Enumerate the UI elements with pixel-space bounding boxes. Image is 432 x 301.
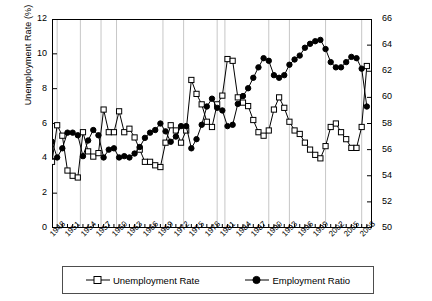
filled-circle-icon [245,275,269,285]
y-tick-label-right: 56 [382,144,404,154]
y-tick-label-left: 12 [25,13,47,23]
plot-area [52,19,372,228]
y-tick-label-left: 10 [25,48,47,58]
y-tick-label-right: 54 [382,170,404,180]
chart-legend: Unemployment Rate Employment Ratio [62,266,374,294]
chart-root: Unemployment Rate (%) Employment Ratio (… [0,0,432,301]
y-tick-label-left: 6 [25,118,47,128]
y-tick-label-left: 0 [25,222,47,232]
open-square-icon [86,275,110,285]
y-tick-label-right: 50 [382,222,404,232]
legend-item-unemployment-rate: Unemployment Rate [86,275,200,286]
y-tick-label-right: 64 [382,39,404,49]
legend-label-employment-ratio: Employment Ratio [272,275,350,286]
y-tick-label-right: 60 [382,91,404,101]
y-tick-label-left: 8 [25,83,47,93]
y-tick-label-right: 62 [382,65,404,75]
y-tick-label-right: 66 [382,13,404,23]
legend-item-employment-ratio: Employment Ratio [245,275,350,286]
legend-label-unemployment-rate: Unemployment Rate [113,275,200,286]
y-tick-label-left: 4 [25,152,47,162]
chart-canvas [52,19,372,228]
y-tick-label-right: 52 [382,196,404,206]
y-tick-label-left: 2 [25,187,47,197]
y-tick-label-right: 58 [382,118,404,128]
